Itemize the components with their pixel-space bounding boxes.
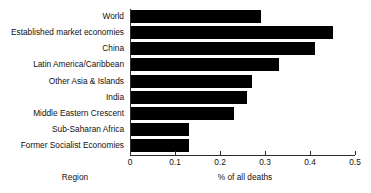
bar-fill xyxy=(130,75,252,88)
x-tick xyxy=(355,151,356,155)
x-tick-label: 0.2 xyxy=(205,157,235,168)
x-tick-label: 0.1 xyxy=(160,157,190,168)
bar-middle-eastern-crescent xyxy=(130,107,234,120)
bar-india xyxy=(130,91,247,104)
x-tick xyxy=(130,151,131,155)
bar-fill xyxy=(130,58,279,71)
bar-established-market-economies xyxy=(130,26,333,39)
x-axis-title: % of all deaths xyxy=(190,172,300,182)
bar-fill xyxy=(130,123,189,136)
bar-fill xyxy=(130,91,247,104)
x-tick xyxy=(310,151,311,155)
bar-fill xyxy=(130,42,315,55)
bar-chart: WorldEstablished market economiesChinaLa… xyxy=(0,0,371,193)
bar-latin-america-caribbean xyxy=(130,58,279,71)
bar-china xyxy=(130,42,315,55)
category-label: Established market economies xyxy=(11,26,124,39)
category-label: World xyxy=(102,10,124,23)
x-tick-label: 0.4 xyxy=(295,157,325,168)
plot-area xyxy=(130,9,355,155)
category-label: Latin America/Caribbean xyxy=(33,58,124,71)
x-tick-label: 0 xyxy=(115,157,145,168)
category-labels: WorldEstablished market economiesChinaLa… xyxy=(0,9,126,155)
x-axis-line xyxy=(130,155,355,156)
bar-world xyxy=(130,10,261,23)
x-tick-label: 0.3 xyxy=(250,157,280,168)
category-label: China xyxy=(102,42,124,55)
category-label: Other Asia & Islands xyxy=(49,75,124,88)
bar-other-asia-islands xyxy=(130,75,252,88)
category-label: India xyxy=(106,91,124,104)
y-axis-title: Region xyxy=(22,172,128,182)
category-label: Sub-Saharan Africa xyxy=(52,123,124,136)
bar-sub-saharan-africa xyxy=(130,123,189,136)
bar-fill xyxy=(130,10,261,23)
category-label: Middle Eastern Crescent xyxy=(33,107,124,120)
bar-fill xyxy=(130,139,189,152)
y-axis-line xyxy=(130,9,131,155)
x-tick xyxy=(175,151,176,155)
bar-former-socialist-economies xyxy=(130,139,189,152)
x-tick xyxy=(265,151,266,155)
bar-fill xyxy=(130,107,234,120)
category-label: Former Socialist Economies xyxy=(21,139,124,152)
x-tick xyxy=(220,151,221,155)
x-tick-label: 0.5 xyxy=(340,157,370,168)
bar-fill xyxy=(130,26,333,39)
